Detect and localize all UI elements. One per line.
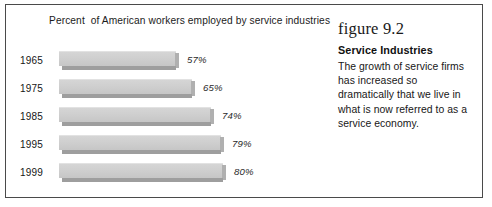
bar <box>59 135 221 155</box>
bar-face <box>59 79 192 94</box>
bar-row: 197565% <box>6 77 302 105</box>
bar-category-label: 1965 <box>20 55 54 66</box>
bar-row: 198574% <box>6 105 302 133</box>
bar-face <box>59 163 223 178</box>
chart-panel: Percent of American workers employed by … <box>6 5 302 197</box>
bar-face <box>59 51 176 66</box>
bar-chart: 196557%197565%198574%199579%199980% <box>6 49 302 197</box>
bar-row: 196557% <box>6 49 302 77</box>
figure-container: Percent of American workers employed by … <box>5 4 483 198</box>
bar-shadow <box>62 150 221 154</box>
bar-value-label: 74% <box>222 110 242 121</box>
bar-value-label: 80% <box>234 166 254 177</box>
bar-value-label: 79% <box>232 138 252 149</box>
figure-number: figure 9.2 <box>338 19 404 39</box>
bar-category-label: 1995 <box>20 139 54 150</box>
bar-face <box>59 107 211 122</box>
bar <box>59 163 223 183</box>
bar-category-label: 1985 <box>20 111 54 122</box>
bar-shadow <box>62 94 192 98</box>
bar-row: 199579% <box>6 133 302 161</box>
bar <box>59 51 176 71</box>
bar-shadow <box>62 122 211 126</box>
chart-title: Percent of American workers employed by … <box>49 14 279 28</box>
caption-heading: Service Industries <box>338 44 433 56</box>
bar-value-label: 65% <box>203 82 223 93</box>
bar <box>59 107 211 127</box>
bar-row: 199980% <box>6 161 302 189</box>
bar-shadow <box>62 178 223 182</box>
bar <box>59 79 192 99</box>
bar-shadow <box>62 66 176 70</box>
bar-value-label: 57% <box>187 54 207 65</box>
caption-panel: figure 9.2 Service Industries The growth… <box>302 5 484 197</box>
bar-face <box>59 135 221 150</box>
caption-body: The growth of service firms has increase… <box>338 60 474 131</box>
bar-category-label: 1999 <box>20 167 54 178</box>
bar-category-label: 1975 <box>20 83 54 94</box>
